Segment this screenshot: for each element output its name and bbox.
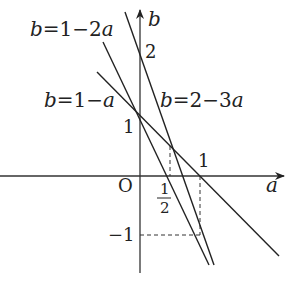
diagram-canvas: b a O 2 1 1 −1 1 2 b=1−2a b=1−a b=2−3a bbox=[0, 0, 294, 303]
label-b-eq-2-minus-3a: b=2−3a bbox=[160, 88, 244, 112]
tick-y-1: 1 bbox=[123, 116, 134, 137]
tick-y-2: 2 bbox=[145, 41, 156, 62]
label-b-eq-1-minus-2a: b=1−2a bbox=[30, 17, 114, 41]
tick-y-neg1: −1 bbox=[108, 224, 135, 245]
line-b-eq-2-minus-3a bbox=[125, 12, 214, 265]
coordinate-plane: b a O 2 1 1 −1 1 2 b=1−2a b=1−a b=2−3a bbox=[0, 0, 294, 303]
tick-x-half-numerator: 1 bbox=[160, 180, 170, 198]
tick-x-1: 1 bbox=[198, 150, 209, 171]
x-axis-label: a bbox=[266, 173, 278, 197]
origin-label: O bbox=[118, 175, 133, 196]
label-b-eq-1-minus-a: b=1−a bbox=[44, 88, 115, 112]
y-axis-label: b bbox=[148, 7, 161, 31]
tick-x-half-denominator: 2 bbox=[160, 199, 170, 217]
